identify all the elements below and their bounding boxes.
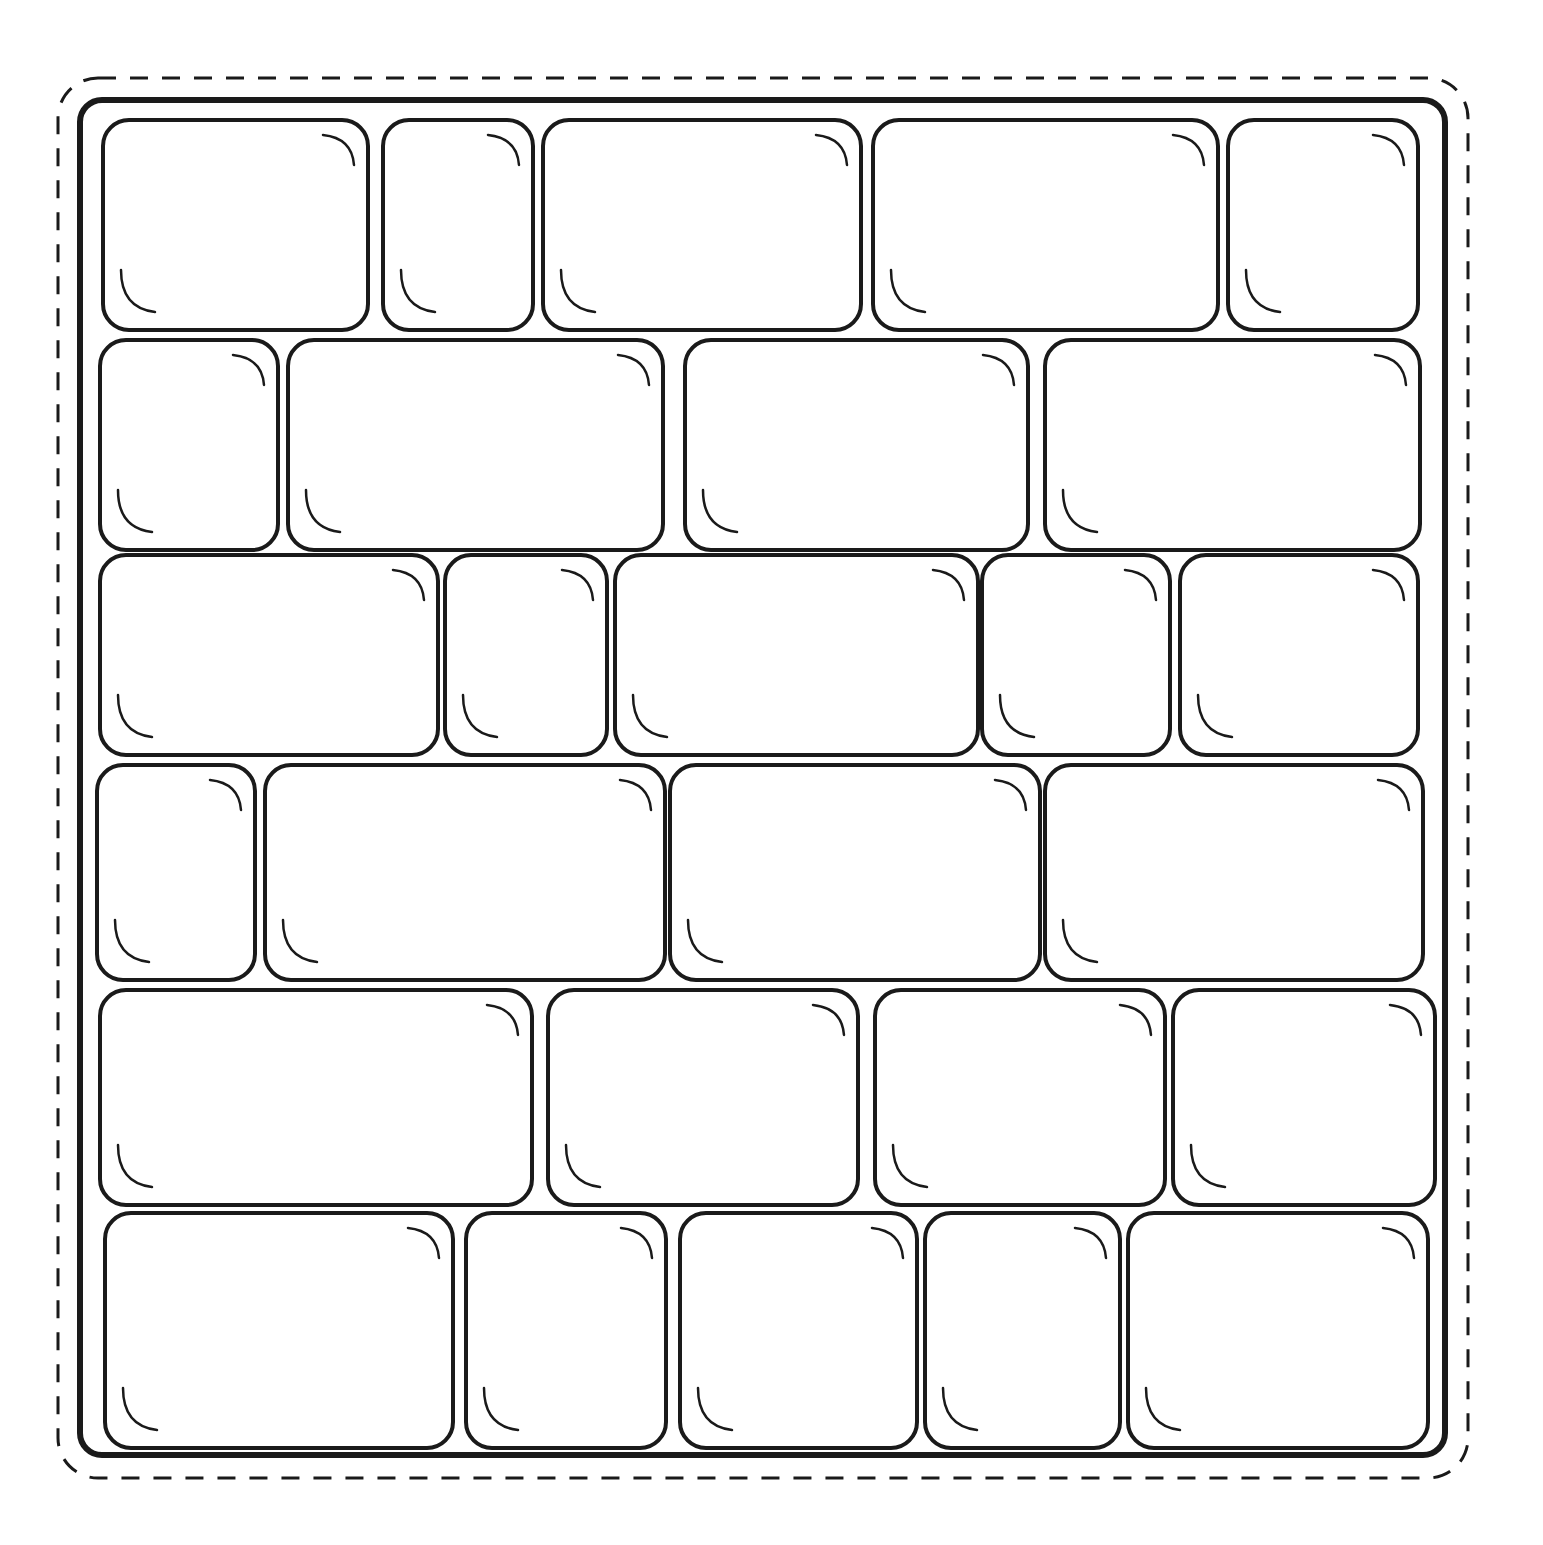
stone-r2-s1	[445, 555, 607, 755]
stone-r1-s2	[685, 340, 1028, 550]
stone-r3-s1	[265, 765, 665, 980]
stone-grid	[97, 120, 1435, 1448]
stone-r0-s1	[383, 120, 533, 330]
stone-r0-s2	[543, 120, 861, 330]
stone-r3-s2	[670, 765, 1040, 980]
stone-r5-s4	[1128, 1213, 1428, 1448]
stone-r5-s1	[466, 1213, 666, 1448]
stone-r2-s2	[615, 555, 978, 755]
stone-r5-s2	[680, 1213, 917, 1448]
stone-wall-illustration	[0, 0, 1543, 1545]
stone-r0-s4	[1228, 120, 1418, 330]
stone-r4-s0	[100, 990, 532, 1205]
stone-r4-s1	[548, 990, 858, 1205]
stone-r5-s3	[925, 1213, 1120, 1448]
stone-r1-s1	[288, 340, 663, 550]
stone-r2-s4	[1180, 555, 1418, 755]
stone-r0-s3	[873, 120, 1218, 330]
stone-r5-s0	[105, 1213, 453, 1448]
stone-r0-s0	[103, 120, 368, 330]
stone-r1-s3	[1045, 340, 1420, 550]
stone-r2-s0	[100, 555, 438, 755]
stone-r4-s2	[875, 990, 1165, 1205]
stone-r3-s3	[1045, 765, 1423, 980]
stone-r4-s3	[1173, 990, 1435, 1205]
